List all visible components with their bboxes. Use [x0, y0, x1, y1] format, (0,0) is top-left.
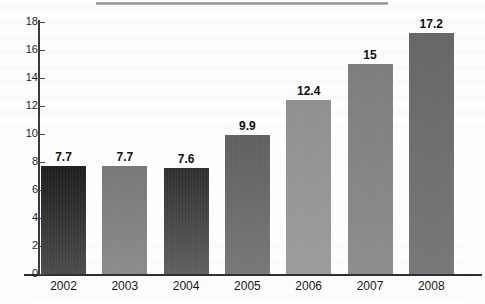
y-axis-tick-label-wrap: 10: [6, 134, 38, 135]
bar-2007: 15: [348, 64, 393, 274]
bar-texture: [225, 135, 270, 274]
y-axis-tick-label: 2: [12, 240, 38, 251]
y-axis-tick-label: 4: [12, 212, 38, 223]
y-axis-tick-label-wrap: 0: [6, 274, 38, 275]
x-axis-tick-label-2007: 2007: [348, 280, 393, 292]
y-axis-tick-label-wrap: 12: [6, 106, 38, 107]
y-axis-tick-label-wrap: 8: [6, 162, 38, 163]
x-axis-tick-label-2008: 2008: [409, 280, 454, 292]
y-axis-tick: [38, 162, 45, 163]
bar-value-label-2008: 17.2: [420, 18, 443, 30]
bar-value-label-2007: 15: [363, 49, 376, 61]
bar-2003: 7.7: [102, 166, 147, 274]
bar-texture: [41, 166, 86, 274]
bar-2002: 7.7: [41, 166, 86, 274]
bar-texture: [102, 166, 147, 274]
x-axis-tick-label-2006: 2006: [286, 280, 331, 292]
bar-texture: [348, 64, 393, 274]
x-axis-tick-label-2003: 2003: [102, 280, 147, 292]
x-axis-tick-label-2004: 2004: [164, 280, 209, 292]
y-axis-tick-label-wrap: 14: [6, 78, 38, 79]
y-axis-tick-label: 10: [12, 128, 38, 139]
x-axis-line: [24, 274, 482, 276]
bar-2004: 7.6: [164, 168, 209, 274]
y-axis-tick-label-wrap: 18: [6, 22, 38, 23]
bar-chart-plot: 024681012141618 7.77.77.69.912.41517.2 2…: [0, 0, 485, 304]
y-axis-tick: [38, 274, 45, 275]
bar-value-label-2003: 7.7: [116, 151, 133, 163]
bar-value-label-2002: 7.7: [55, 151, 72, 163]
bar-value-label-2005: 9.9: [239, 120, 256, 132]
bar-2005: 9.9: [225, 135, 270, 274]
y-axis-tick-label-wrap: 4: [6, 218, 38, 219]
y-axis-tick: [38, 134, 45, 135]
y-axis-line: [38, 20, 40, 276]
x-axis-tick-label-2002: 2002: [41, 280, 86, 292]
bar-texture: [409, 33, 454, 274]
bar-2008: 17.2: [409, 33, 454, 274]
y-axis-tick: [38, 78, 45, 79]
bar-texture: [164, 168, 209, 274]
y-axis-tick-label: 14: [12, 72, 38, 83]
y-axis-tick-label: 18: [12, 16, 38, 27]
y-axis-tick-label-wrap: 16: [6, 50, 38, 51]
y-axis-tick-label: 6: [12, 184, 38, 195]
chart-screenshot: 024681012141618 7.77.77.69.912.41517.2 2…: [0, 0, 485, 304]
bar-2006: 12.4: [286, 100, 331, 274]
y-axis-tick-label-wrap: 2: [6, 246, 38, 247]
bar-texture: [286, 100, 331, 274]
y-axis-tick-label: 12: [12, 100, 38, 111]
y-axis-tick-label-wrap: 6: [6, 190, 38, 191]
y-axis-tick-label: 0: [12, 268, 38, 279]
bar-value-label-2004: 7.6: [178, 153, 195, 165]
y-axis-tick: [38, 50, 45, 51]
x-axis-tick-label-2005: 2005: [225, 280, 270, 292]
y-axis-tick-label: 16: [12, 44, 38, 55]
y-axis-tick: [38, 22, 45, 23]
y-axis-tick: [38, 106, 45, 107]
y-axis-tick-label: 8: [12, 156, 38, 167]
bar-value-label-2006: 12.4: [297, 85, 320, 97]
